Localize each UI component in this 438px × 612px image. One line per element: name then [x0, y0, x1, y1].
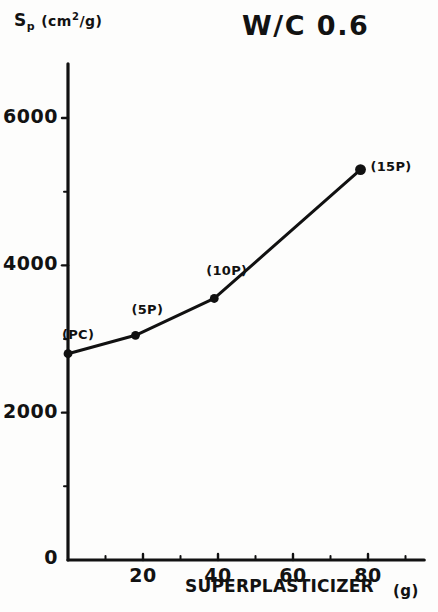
x-tick-label: 20 [123, 566, 163, 585]
axes-group [68, 64, 424, 560]
data-point-label: (PC) [62, 328, 94, 341]
y-tick-label: 0 [38, 548, 58, 567]
data-point-markers [64, 164, 366, 358]
data-point-marker [64, 349, 73, 358]
data-series-line [68, 170, 361, 354]
figure-container: Sp(cm2/g) W/C 0.6 0200040006000 20406080… [0, 0, 438, 612]
series-polyline [68, 170, 361, 354]
data-point-marker [210, 294, 219, 303]
data-point-label: (15P) [371, 160, 412, 173]
data-point-marker [131, 331, 140, 340]
x-axis-label: SUPERPLASTICIZER [185, 578, 374, 595]
data-point-label: (5P) [132, 303, 164, 316]
tick-marks-group [62, 118, 406, 560]
plot-area [0, 0, 438, 612]
data-point-marker [355, 164, 366, 175]
y-tick-label: 2000 [0, 402, 58, 421]
y-tick-label: 4000 [0, 254, 58, 273]
data-point-label: (10P) [206, 264, 247, 277]
y-tick-label: 6000 [0, 107, 58, 126]
x-axis-unit: (g) [393, 584, 419, 599]
